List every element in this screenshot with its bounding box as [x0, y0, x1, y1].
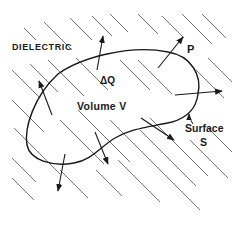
arrow-lower-right: [141, 118, 174, 140]
arrow-top: [97, 36, 103, 70]
dielectric-label: DIELECTRIC: [12, 43, 72, 52]
arrow-left: [39, 81, 52, 115]
surface-label: Surface: [185, 123, 224, 134]
surface-s-label: S: [200, 137, 207, 148]
arrow-bottom-middle: [95, 132, 108, 164]
polarization-p-label: P: [187, 44, 194, 55]
arrow-p: [158, 37, 183, 68]
volume-v-label: Volume V: [77, 101, 126, 112]
polarization-arrows: [39, 36, 222, 191]
charge-delta-q-label: ΔQ: [100, 76, 115, 86]
